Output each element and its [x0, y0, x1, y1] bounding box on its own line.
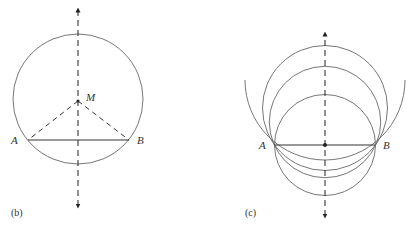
figure-b: A B M (b) [10, 10, 144, 219]
label-b-c: B [383, 139, 390, 151]
caption-c: (c) [245, 207, 256, 219]
diagram-canvas: A B M (b) A B (c) [0, 0, 419, 230]
label-b-b: B [137, 134, 144, 146]
caption-b: (b) [11, 207, 23, 219]
label-a-c: A [258, 139, 266, 151]
label-a-b: A [10, 134, 18, 146]
midpoint-c [323, 143, 327, 147]
radius-mb [78, 101, 129, 140]
figure-c-lines: A B (c) [245, 34, 390, 219]
label-m: M [85, 91, 96, 103]
point-m [77, 100, 80, 103]
radius-ma [28, 101, 78, 140]
